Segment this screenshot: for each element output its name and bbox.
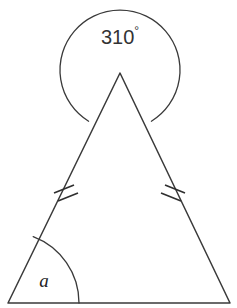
right-side-tick-marks [161,185,185,201]
left-side-tick-marks [54,185,78,201]
degree-symbol-icon: ° [134,24,139,38]
figure-canvas: 310° a [0,0,237,308]
right-tick-1 [165,185,185,193]
reflex-angle-value: 310 [101,26,134,48]
isosceles-triangle [8,73,230,303]
geometry-figure: 310° a [0,0,237,308]
reflex-angle-label: 310° [101,24,139,48]
left-tick-1 [54,185,74,193]
angle-a-label: a [39,270,49,291]
